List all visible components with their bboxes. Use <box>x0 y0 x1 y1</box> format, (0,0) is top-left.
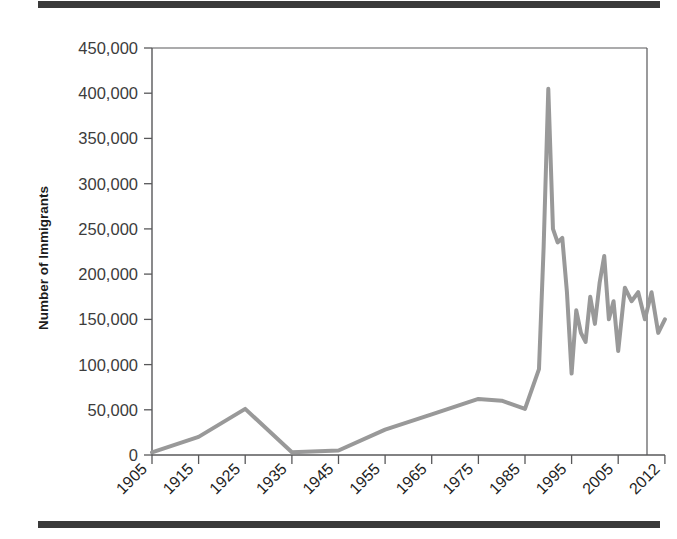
x-tick-label: 1925 <box>206 460 243 497</box>
y-tick-label: 150,000 <box>78 310 138 328</box>
y-tick-label: 400,000 <box>78 84 138 102</box>
x-tick-label: 1905 <box>113 460 150 497</box>
axis-frame <box>152 48 665 455</box>
y-tick-label: 250,000 <box>78 220 138 238</box>
x-tick-label: 1975 <box>439 460 476 497</box>
y-tick-label: 100,000 <box>78 356 138 374</box>
x-tick-label: 1945 <box>299 460 336 497</box>
y-axis-tick-labels: 450,000 400,000 350,000 300,000 250,000 … <box>78 39 138 464</box>
x-tick-label: 2005 <box>579 460 616 497</box>
line-chart: 450,000 400,000 350,000 300,000 250,000 … <box>0 0 677 539</box>
x-tick-label: 2012 <box>626 460 663 497</box>
data-series-line <box>152 89 665 453</box>
x-tick-label: 1915 <box>160 460 197 497</box>
x-tick-label: 1995 <box>533 460 570 497</box>
x-tick-label: 1965 <box>393 460 430 497</box>
y-axis-ticks <box>144 48 152 455</box>
figure-container: 450,000 400,000 350,000 300,000 250,000 … <box>0 0 677 539</box>
y-tick-label: 300,000 <box>78 175 138 193</box>
x-axis-tick-labels: 1905 1915 1925 1935 1945 1955 1965 1975 … <box>113 460 663 497</box>
y-tick-label: 200,000 <box>78 265 138 283</box>
x-tick-label: 1955 <box>346 460 383 497</box>
x-tick-label: 1985 <box>486 460 523 497</box>
y-tick-label: 50,000 <box>88 401 138 419</box>
y-tick-label: 350,000 <box>78 129 138 147</box>
y-tick-label: 450,000 <box>78 39 138 57</box>
y-axis-title: Number of Immigrants <box>36 186 51 330</box>
chart-svg: 450,000 400,000 350,000 300,000 250,000 … <box>0 0 677 539</box>
x-tick-label: 1935 <box>253 460 290 497</box>
